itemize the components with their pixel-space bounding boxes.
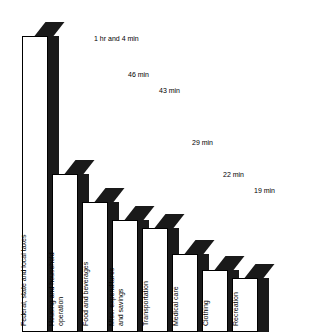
- bar-category-label: Recreation: [232, 292, 240, 326]
- bar-top-face: [35, 22, 65, 36]
- bar-category-label-line2: and savings: [117, 289, 125, 326]
- bar-value-label: 43 min: [159, 86, 180, 95]
- bar-top-face: [245, 264, 275, 278]
- bar-category-label: Food and beverages: [82, 262, 90, 326]
- bar-top-face: [155, 214, 185, 228]
- bar-value-label: 19 min: [254, 186, 275, 195]
- bar-value-label: 46 min: [128, 70, 149, 79]
- bar-category-label: Federal, state and local taxes: [20, 235, 28, 326]
- bar-top-face: [65, 160, 95, 174]
- bar-top-face: [95, 188, 125, 202]
- bar-value-label: 1 hr and 4 min: [94, 34, 139, 43]
- bar-group: 19 min Recreation: [232, 260, 268, 332]
- bar-chart: 2 hr and 49 min Federal, state and local…: [0, 0, 322, 332]
- bar-category-label: Housing and household: [48, 240, 56, 326]
- bar-category-label: Transportation: [142, 281, 150, 326]
- bar-value-label: 22 min: [223, 170, 244, 179]
- bar-side-face: [257, 278, 269, 332]
- bar-value-label: 29 min: [192, 138, 213, 147]
- bar-category-label-line2: operation: [57, 297, 65, 326]
- bar-category-label: Medical care: [172, 286, 180, 326]
- bar-category-label: Clothing: [202, 300, 210, 326]
- plot-area: 2 hr and 49 min Federal, state and local…: [0, 0, 322, 332]
- bar-category-label: Misc. expenditures: [108, 240, 116, 326]
